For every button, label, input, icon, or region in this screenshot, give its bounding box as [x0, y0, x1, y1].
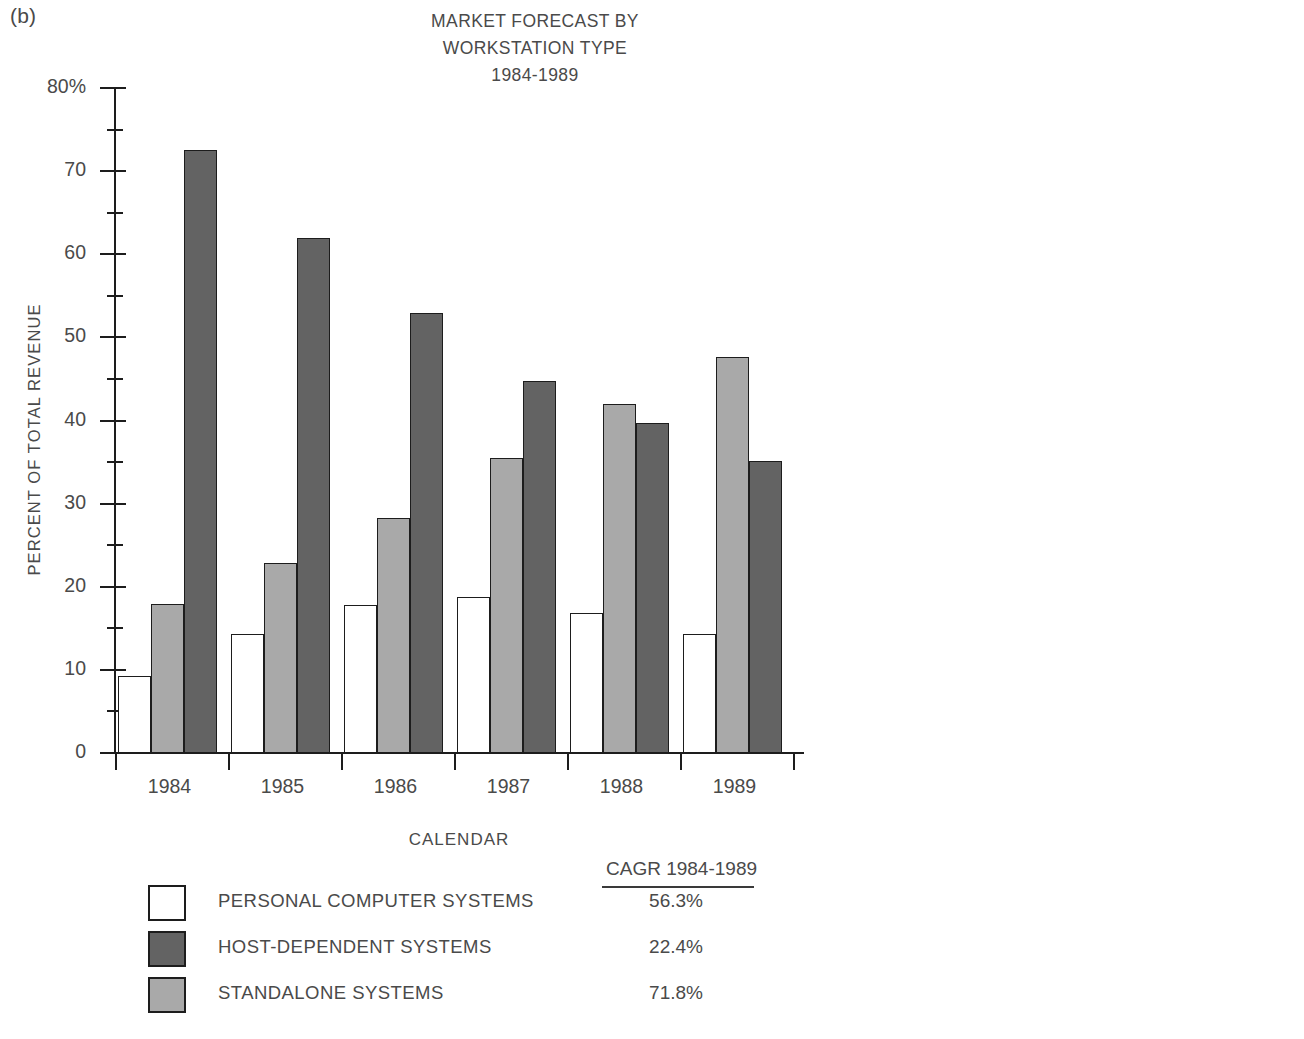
- cagr-header-rule: [602, 886, 754, 888]
- legend-label-standalone-systems: STANDALONE SYSTEMS: [218, 982, 444, 1004]
- x-axis-title: CALENDAR: [359, 830, 559, 850]
- x-axis-label-1984: 1984: [110, 775, 230, 798]
- y-tick-80: [100, 87, 126, 89]
- x-axis-label-1986: 1986: [336, 775, 456, 798]
- legend-label-personal-computer-systems: PERSONAL COMPUTER SYSTEMS: [218, 890, 534, 912]
- cagr-value-standalone-systems: 71.8%: [606, 982, 746, 1004]
- y-tick-label-10: 10: [8, 657, 86, 680]
- bar-host-1988: [636, 423, 669, 753]
- bar-standalone-1987: [490, 458, 523, 753]
- bar-pc-1984: [118, 676, 151, 753]
- x-tick-end: [793, 753, 795, 770]
- x-axis-label-1987: 1987: [449, 775, 569, 798]
- legend-swatch-personal-computer-systems: [148, 885, 186, 921]
- y-tick-60: [100, 253, 126, 255]
- legend: PERSONAL COMPUTER SYSTEMS 56.3% HOST-DEP…: [148, 882, 1148, 1020]
- y-tick-70: [100, 170, 126, 172]
- bar-standalone-1989: [716, 357, 749, 753]
- bar-host-1985: [297, 238, 330, 753]
- y-tick-20: [100, 586, 126, 588]
- legend-row: PERSONAL COMPUTER SYSTEMS 56.3%: [148, 882, 1148, 928]
- bar-pc-1986: [344, 605, 377, 753]
- legend-row: STANDALONE SYSTEMS 71.8%: [148, 974, 1148, 1020]
- bar-standalone-1988: [603, 404, 636, 753]
- x-tick-1986: [341, 753, 343, 770]
- y-tick-50: [100, 336, 126, 338]
- bar-pc-1987: [457, 597, 490, 753]
- y-tick-40: [100, 420, 126, 422]
- y-tick-label-60: 60: [8, 241, 86, 264]
- bar-pc-1989: [683, 634, 716, 753]
- bar-host-1987: [523, 381, 556, 753]
- y-tick-minor-15: [107, 627, 123, 629]
- bar-standalone-1985: [264, 563, 297, 753]
- y-tick-minor-75: [107, 129, 123, 131]
- bar-standalone-1986: [377, 518, 410, 753]
- bar-host-1986: [410, 313, 443, 753]
- x-tick-1984: [115, 753, 117, 770]
- y-tick-label-40: 40: [8, 408, 86, 431]
- bar-host-1989: [749, 461, 782, 753]
- cagr-column-header: CAGR 1984-1989: [606, 858, 746, 880]
- y-tick-minor-45: [107, 378, 123, 380]
- y-tick-30: [100, 503, 126, 505]
- x-axis-label-1988: 1988: [562, 775, 682, 798]
- y-tick-10: [100, 669, 126, 671]
- y-tick-label-70: 70: [8, 158, 86, 181]
- x-axis-label-1985: 1985: [223, 775, 343, 798]
- y-tick-minor-25: [107, 544, 123, 546]
- cagr-value-personal-computer-systems: 56.3%: [606, 890, 746, 912]
- x-tick-1985: [228, 753, 230, 770]
- x-axis-label-1989: 1989: [675, 775, 795, 798]
- legend-swatch-standalone-systems: [148, 977, 186, 1013]
- y-tick-label-80: 80%: [8, 75, 86, 98]
- bar-pc-1988: [570, 613, 603, 753]
- legend-row: HOST-DEPENDENT SYSTEMS 22.4%: [148, 928, 1148, 974]
- figure-panel: (b) MARKET FORECAST BY WORKSTATION TYPE …: [0, 0, 1304, 1039]
- y-tick-minor-65: [107, 212, 123, 214]
- bar-host-1984: [184, 150, 217, 753]
- y-tick-minor-55: [107, 295, 123, 297]
- bar-standalone-1984: [151, 604, 184, 753]
- bar-pc-1985: [231, 634, 264, 753]
- x-tick-1988: [567, 753, 569, 770]
- y-tick-label-20: 20: [8, 574, 86, 597]
- cagr-value-host-dependent-systems: 22.4%: [606, 936, 746, 958]
- y-tick-label-30: 30: [8, 491, 86, 514]
- legend-swatch-host-dependent-systems: [148, 931, 186, 967]
- x-tick-1987: [454, 753, 456, 770]
- y-tick-label-0: 0: [8, 740, 86, 763]
- y-tick-minor-35: [107, 461, 123, 463]
- y-tick-label-50: 50: [8, 324, 86, 347]
- legend-label-host-dependent-systems: HOST-DEPENDENT SYSTEMS: [218, 936, 492, 958]
- x-tick-1989: [680, 753, 682, 770]
- y-axis-title: PERCENT OF TOTAL REVENUE: [25, 260, 44, 620]
